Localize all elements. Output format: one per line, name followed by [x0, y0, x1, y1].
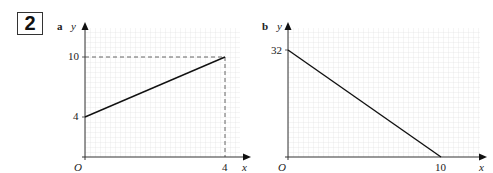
chart-b-grid — [288, 28, 480, 157]
chart-b-y-label: y — [276, 20, 282, 32]
chart-a-ytick-label-10: 10 — [68, 50, 80, 62]
chart-a-part-label: a — [57, 20, 63, 32]
chart-b: b y 32 O 10 x — [262, 20, 487, 173]
chart-a-xtick-label-4: 4 — [222, 161, 228, 173]
chart-a-ytick-label-4: 4 — [73, 110, 79, 122]
chart-a-y-arrow-icon — [82, 22, 89, 30]
chart-a: a y 10 4 O 4 x — [57, 20, 251, 173]
chart-b-ytick-label-32: 32 — [271, 44, 282, 56]
chart-b-x-arrow-icon — [479, 154, 487, 161]
chart-b-part-label: b — [262, 20, 268, 32]
chart-b-y-arrow-icon — [285, 22, 292, 30]
chart-a-origin-label: O — [74, 161, 82, 173]
chart-a-x-arrow-icon — [243, 154, 251, 161]
chart-a-x-label: x — [241, 161, 247, 173]
chart-a-grid — [85, 28, 240, 157]
chart-a-y-label: y — [70, 20, 76, 32]
chart-b-x-label: x — [478, 161, 484, 173]
chart-b-origin-label: O — [278, 161, 286, 173]
chart-b-xtick-label-10: 10 — [435, 161, 447, 173]
charts-canvas: a y 10 4 O 4 x b y 32 O 10 x — [0, 0, 493, 173]
